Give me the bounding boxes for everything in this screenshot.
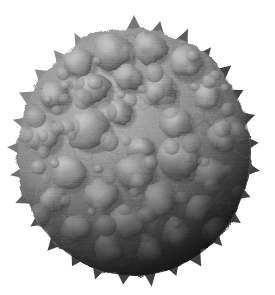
lower-shadow [18, 28, 250, 276]
particle-image [0, 0, 275, 295]
micrograph-figure: Gray spherical particle with knobby bump… [0, 0, 275, 295]
